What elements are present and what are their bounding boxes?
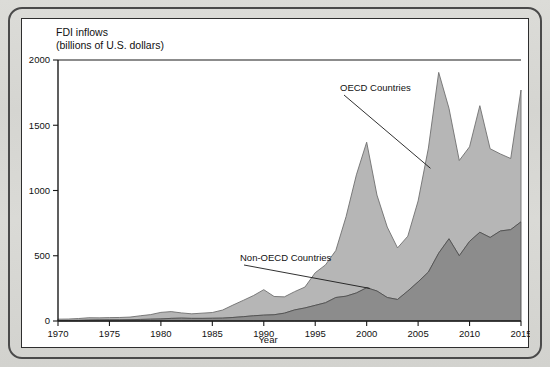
x-tick-label-1980: 1980 [150,328,171,339]
oecd-countries-leader-line [344,95,430,168]
y-tick-label-1500: 1500 [29,120,50,131]
series-areas [58,72,521,321]
y-tick-label-0: 0 [45,315,50,326]
oecd-countries-label: OECD Countries [340,82,411,93]
y-tick-label-1000: 1000 [29,185,50,196]
x-tick-label-2000: 2000 [356,328,377,339]
y-tick-label-2000: 2000 [29,54,50,65]
x-tick-label-1985: 1985 [202,328,223,339]
non-oecd-countries-label: Non-OECD Countries [240,252,332,263]
x-tick-label-2015: 2015 [510,328,530,339]
screenshot-root: FDI inflows (billions of U.S. dollars) 0… [0,0,550,367]
fdi-inflows-area-chart: 0500100015002000197019751980198519901995… [22,19,530,349]
x-tick-label-2005: 2005 [408,328,429,339]
x-tick-label-1970: 1970 [47,328,68,339]
plot-area: 0500100015002000197019751980198519901995… [22,19,530,349]
x-tick-label-1995: 1995 [305,328,326,339]
y-tick-label-500: 500 [34,250,50,261]
figure-panel: FDI inflows (billions of U.S. dollars) 0… [21,18,529,348]
x-axis-title: Year [258,334,277,345]
x-tick-label-2010: 2010 [459,328,480,339]
x-tick-label-1975: 1975 [99,328,120,339]
